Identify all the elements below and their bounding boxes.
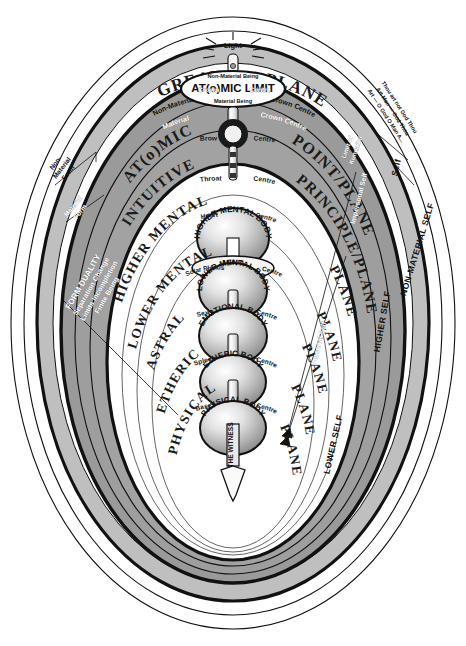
light-lamp-core bbox=[230, 63, 235, 68]
label-material-being: Material Being bbox=[214, 98, 253, 104]
spine-notch-1 bbox=[230, 152, 236, 157]
light-label: Light bbox=[224, 41, 243, 50]
centre-brow-left: Brow bbox=[200, 134, 218, 142]
spine-notch-3 bbox=[230, 173, 236, 178]
centre-crown-left: Crown bbox=[198, 86, 219, 93]
great-planes-diagram: Light GREAT PLANES Non-Material Crown Ce… bbox=[0, 0, 466, 646]
spine-notch-2 bbox=[230, 163, 236, 168]
centre-crown-right: Centre bbox=[249, 86, 271, 94]
label-non-material-being: Non-Material Being bbox=[208, 73, 260, 79]
witness-label: THE WITNESS bbox=[227, 422, 234, 468]
diagram-canvas: Light GREAT PLANES Non-Material Crown Ce… bbox=[0, 0, 466, 646]
brow-chakra-inner bbox=[224, 125, 242, 143]
